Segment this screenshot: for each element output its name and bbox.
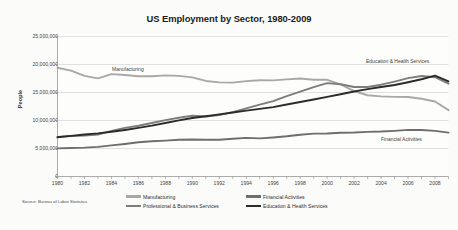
- legend-swatch-icon: [126, 205, 141, 208]
- legend-label: Education & Health Services: [263, 203, 328, 209]
- legend-swatch-icon: [246, 195, 261, 198]
- legend-label: Manufacturing: [143, 194, 175, 200]
- legend-item-manufacturing[interactable]: Manufacturing: [126, 192, 175, 201]
- source-note: Source: Bureau of Labor Statistics: [22, 199, 87, 204]
- legend-item-education-health-services[interactable]: Education & Health Services: [246, 202, 328, 211]
- series-label-financial-activities: Financial Activities: [381, 136, 422, 142]
- legend-label: Professional & Business Services: [143, 203, 219, 209]
- series-label-education-health: Education & Health Services: [366, 58, 429, 64]
- chart-container: US Employment by Sector, 1980-2009 Peopl…: [0, 0, 458, 230]
- legend-item-professional-business-services[interactable]: Professional & Business Services: [126, 202, 219, 211]
- chart-legend: Manufacturing Professional & Business Se…: [0, 192, 458, 216]
- legend-swatch-icon: [126, 195, 141, 198]
- legend-item-financial-activities[interactable]: Financial Activities: [246, 192, 305, 201]
- legend-label: Financial Activities: [263, 194, 305, 200]
- legend-swatch-icon: [246, 205, 261, 208]
- series-label-manufacturing: Manufacturing: [112, 66, 144, 72]
